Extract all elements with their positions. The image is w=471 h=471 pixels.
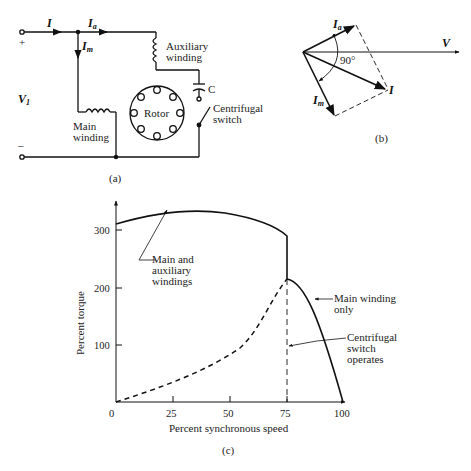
x-axis-label: Percent synchronous speed [169, 422, 289, 434]
label-voltage: V1 [18, 92, 30, 107]
label-angle: 90° [340, 54, 355, 66]
svg-text:300: 300 [94, 225, 110, 236]
label-switch-2: switch [213, 113, 242, 125]
caption-a: (a) [109, 172, 122, 185]
svg-text:100: 100 [94, 340, 110, 351]
y-axis-label: Percent torque [74, 291, 86, 355]
torque-speed-chart: 0 25 50 75 100 100 200 300 Percent synch… [74, 201, 397, 457]
label-main-winding-2: winding [73, 131, 110, 143]
chart-curves [116, 210, 346, 402]
caption-c: (c) [222, 444, 235, 457]
curve-main-and-aux [116, 211, 287, 279]
label-current-main: Im [81, 39, 93, 54]
phasor-diagram [303, 25, 459, 116]
x-tick-labels: 0 25 50 75 100 [109, 408, 350, 419]
label-ia: Ia [332, 17, 342, 32]
chart-axes [116, 201, 345, 402]
y-tick-labels: 100 200 300 [94, 225, 110, 351]
label-plus: + [19, 36, 25, 48]
label-minus: – [17, 139, 24, 151]
svg-text:25: 25 [166, 408, 177, 419]
svg-text:200: 200 [94, 283, 110, 294]
label-current-aux: Ia [87, 16, 97, 31]
svg-text:100: 100 [334, 408, 350, 419]
svg-text:only: only [334, 303, 354, 315]
label-im: Im [312, 93, 324, 108]
svg-text:50: 50 [223, 408, 234, 419]
svg-text:operates: operates [347, 353, 384, 365]
label-i: I [388, 83, 395, 97]
figure-canvas: I Ia Im + – V1 Auxiliary winding C Rotor… [0, 0, 471, 471]
label-v: V [442, 36, 451, 50]
label-capacitor: C [208, 83, 215, 95]
svg-text:75: 75 [280, 408, 291, 419]
svg-text:0: 0 [109, 408, 114, 419]
curve-main-only-dashed [116, 279, 287, 402]
label-aux-winding-2: winding [166, 51, 203, 63]
chart-annotations: Main and auxiliary windings Main winding… [152, 253, 397, 365]
caption-b: (b) [375, 132, 388, 145]
label-current-total: I [46, 16, 53, 30]
svg-text:windings: windings [152, 275, 192, 287]
label-rotor: Rotor [144, 107, 169, 119]
